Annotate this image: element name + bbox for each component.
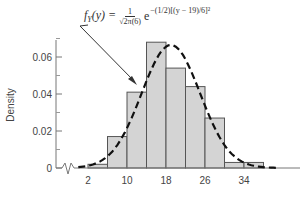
histogram-chart: 0.060.040.020 210182634 Density [0, 0, 301, 198]
y-tick-label: 0 [46, 163, 52, 174]
arrowhead-icon [128, 76, 137, 85]
x-tick-label: 10 [121, 175, 133, 186]
x-tick-label: 2 [85, 175, 91, 186]
y-tick-label: 0.06 [33, 52, 53, 63]
annotation-arrow [80, 25, 137, 85]
x-tick-label: 18 [160, 175, 172, 186]
histogram-bar [166, 68, 186, 168]
density-formula: fY(y) = 1 √2π(6) e −(1/2)[(y − 19)/6]² [84, 7, 210, 26]
y-axis-title: Density [5, 88, 16, 121]
histogram-bar [147, 42, 167, 168]
x-ticks: 210182634 [85, 175, 250, 186]
y-tick-label: 0.02 [33, 126, 53, 137]
y-tick-label: 0.04 [33, 89, 53, 100]
formula-exponent: −(1/2)[(y − 19)/6]² [150, 6, 210, 15]
formula-fraction: 1 √2π(6) [119, 7, 141, 26]
y-ticks: 0.060.040.020 [33, 39, 62, 175]
x-tick-label: 34 [238, 175, 250, 186]
histogram-bar [225, 162, 245, 168]
formula-lhs: fY(y) = [84, 8, 116, 24]
formula-base: e [144, 9, 149, 24]
x-tick-label: 26 [199, 175, 211, 186]
